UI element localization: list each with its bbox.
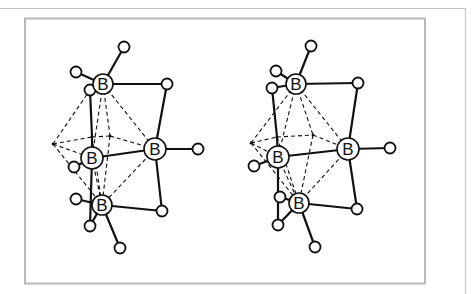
hydrogen-atom [193,144,204,155]
hydrogen-atom [306,41,317,52]
hydrogen-atom [119,42,130,53]
boron-atom: B [92,195,112,215]
atom-label: B [86,149,97,168]
hydrogen-atom [310,242,321,253]
boron-atom: B [289,193,309,213]
boron-atom: B [337,138,359,160]
atom-label: B [96,196,107,215]
hydrogen-atom [273,220,284,231]
hydrogen-atom [115,243,126,254]
hydrogen-atom [353,78,364,89]
hydrogen-atom [71,194,82,205]
hydrogen-atom [85,221,96,232]
hydrogen-atom [157,206,168,217]
hydrogen-atom [162,79,173,90]
stereo-diagram: BBBB BBBB [0,0,475,294]
hydrogen-atom [275,192,286,203]
vertex-point [312,134,315,137]
atom-label: B [149,140,160,159]
boron-atom: B [267,146,289,168]
atom-label: B [342,140,353,159]
vertex-point [52,143,55,146]
boron-atom: B [286,74,306,94]
boron-atom: B [81,147,103,169]
vertex-point [250,142,253,145]
hydrogen-atom [267,83,278,94]
hydrogen-atom [352,204,363,215]
boron-atom: B [144,138,166,160]
atom-label: B [272,148,283,167]
atom-label: B [293,194,304,213]
boron-atom: B [93,74,113,94]
vertex-point [91,136,94,139]
hydrogen-atom [69,162,80,173]
hydrogen-atom [271,66,282,77]
vertex-point [109,135,112,138]
hydrogen-atom [71,67,82,78]
atom-label: B [290,75,301,94]
vertex-point [276,136,279,139]
atom-label: B [97,75,108,94]
hydrogen-atom [249,161,260,172]
hydrogen-atom [385,143,396,154]
